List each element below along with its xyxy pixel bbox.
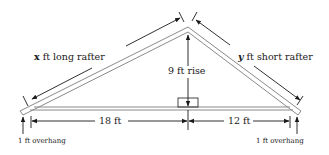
long-rafter-label: x ft long rafter: [34, 52, 105, 62]
left-rafter: [20, 27, 188, 115]
short-rafter-label: y ft short rafter: [238, 52, 313, 62]
right-overhang-label: 1 ft overhang: [256, 138, 304, 145]
long-rafter-text: ft long rafter: [40, 51, 105, 62]
roof-drawing: [0, 0, 329, 155]
rise-label: 9 ft rise: [167, 66, 207, 76]
roof-diagram: x ft long rafter y ft short rafter 9 ft …: [0, 0, 329, 155]
left-run-label: 18 ft: [96, 116, 124, 126]
right-run-label: 12 ft: [225, 116, 253, 126]
short-rafter-text: ft short rafter: [244, 51, 313, 62]
ceiling-beam: [30, 107, 293, 110]
left-overhang-label: 1 ft overhang: [18, 138, 66, 145]
